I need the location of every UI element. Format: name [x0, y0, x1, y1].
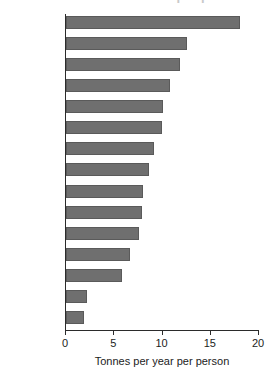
x-axis-tick — [65, 330, 66, 335]
x-axis-title: Tonnes per year per person — [65, 355, 259, 368]
x-axis-tick-label: 10 — [147, 337, 177, 350]
x-axis-tick-label: 5 — [98, 337, 128, 350]
x-axis-tick — [258, 330, 259, 335]
bar-chart: Carbon dioxide emissions per person USRu… — [0, 0, 279, 374]
bar — [66, 290, 87, 303]
bar — [66, 37, 187, 50]
bar — [66, 269, 122, 282]
x-axis-tick — [113, 330, 114, 335]
x-axis-tick-label: 0 — [50, 337, 80, 350]
bar — [66, 58, 180, 71]
bar — [66, 121, 162, 134]
bar — [66, 100, 163, 113]
bar — [66, 185, 143, 198]
bar — [66, 206, 142, 219]
x-axis-tick-label: 20 — [243, 337, 273, 350]
plot-area: USRussiaCzech Rep.NetherlandsGermanyJapa… — [0, 0, 279, 374]
bar — [66, 163, 149, 176]
bar — [66, 248, 130, 261]
bar — [66, 227, 139, 240]
bar — [66, 311, 84, 324]
x-axis-tick — [162, 330, 163, 335]
bar — [66, 79, 170, 92]
bar — [66, 142, 154, 155]
x-axis-tick — [210, 330, 211, 335]
x-axis-tick-label: 15 — [195, 337, 225, 350]
bar — [66, 16, 240, 29]
